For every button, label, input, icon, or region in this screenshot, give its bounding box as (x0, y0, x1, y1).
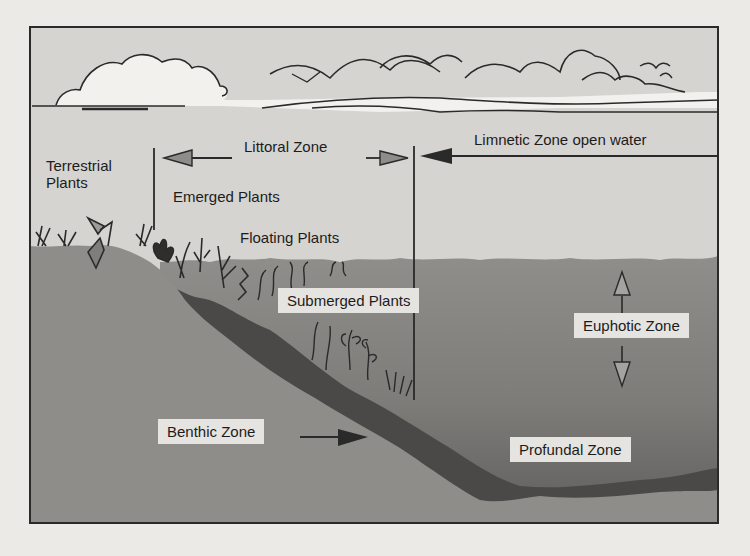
label-benthic-zone: Benthic Zone (158, 419, 264, 444)
label-littoral-zone: Littoral Zone (244, 138, 327, 155)
diagram-canvas (0, 0, 750, 556)
label-terrestrial-line2: Plants (46, 174, 112, 191)
label-emerged-plants: Emerged Plants (173, 188, 280, 205)
label-terrestrial-line1: Terrestrial (46, 157, 112, 174)
label-limnetic-zone: Limnetic Zone open water (474, 131, 647, 148)
label-euphotic-zone: Euphotic Zone (574, 313, 689, 338)
label-terrestrial-plants: Terrestrial Plants (46, 157, 112, 191)
label-profundal-zone: Profundal Zone (510, 437, 631, 462)
lake-zones-diagram: Terrestrial Plants Littoral Zone Limneti… (0, 0, 750, 556)
label-floating-plants: Floating Plants (240, 229, 339, 246)
label-submerged-plants: Submerged Plants (278, 288, 419, 313)
